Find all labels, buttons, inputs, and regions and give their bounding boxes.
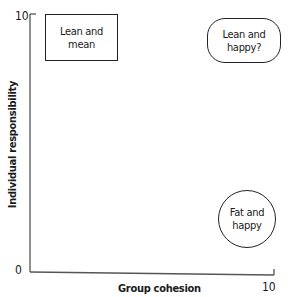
lean-and-happy-box: Lean and happy? (207, 18, 281, 63)
lean-and-mean-box: Lean and mean (45, 14, 118, 61)
x-axis-title: Group cohesion (118, 282, 201, 295)
x-axis-max-label: 10 (262, 281, 276, 293)
x-axis-line (30, 272, 274, 275)
fat-and-happy-circle: Fat and happy (218, 190, 276, 248)
lean-and-mean-label: Lean and mean (46, 25, 117, 51)
fat-and-happy-label-line2: happy (232, 219, 261, 232)
y-axis-max-label: 10 (15, 10, 29, 22)
y-axis-title: Individual responsibility (6, 80, 19, 210)
lean-and-happy-label: Lean and happy? (208, 28, 280, 54)
origin-label: 0 (15, 264, 22, 276)
fat-and-happy-label-line1: Fat and (230, 206, 264, 219)
